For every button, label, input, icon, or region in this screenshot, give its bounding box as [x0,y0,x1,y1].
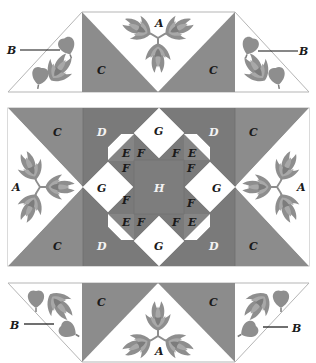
label-a: A [296,181,306,194]
label-f: F [171,147,181,160]
label-e: E [121,147,131,160]
label-b: B [298,45,308,58]
label-a: A [11,181,21,194]
label-f: F [186,197,196,210]
label-c: C [97,64,106,77]
center-block: C C C C D D D D A A G G G G H E E E E F … [8,108,309,266]
label-e: E [187,216,197,229]
label-e: E [121,216,131,229]
label-d: D [96,240,107,253]
label-c: C [97,296,106,309]
label-f: F [121,162,131,175]
label-g: G [97,182,106,195]
label-g: G [212,182,221,195]
label-b: B [291,322,301,335]
top-border-band: A C C B B [6,10,309,92]
bottom-border-band: C C A B B [8,283,309,363]
label-c: C [209,296,218,309]
label-c: C [53,240,62,253]
label-c: C [209,64,218,77]
quilt-diagram: A C C B B [0,0,316,363]
label-f: F [171,216,181,229]
label-b: B [6,44,16,57]
label-c: C [249,126,258,139]
label-a: A [154,17,164,30]
label-d: D [208,126,219,139]
label-f: F [186,162,196,175]
label-f: F [121,194,131,207]
label-b: B [9,319,19,332]
label-d: D [208,240,219,253]
label-e: E [187,147,197,160]
label-c: C [53,126,62,139]
label-f: F [136,216,146,229]
label-g: G [154,125,163,138]
label-f: F [136,147,146,160]
label-d: D [96,126,107,139]
label-h: H [153,182,165,195]
label-a: A [154,345,164,358]
label-g: G [154,240,163,253]
label-c: C [249,240,258,253]
